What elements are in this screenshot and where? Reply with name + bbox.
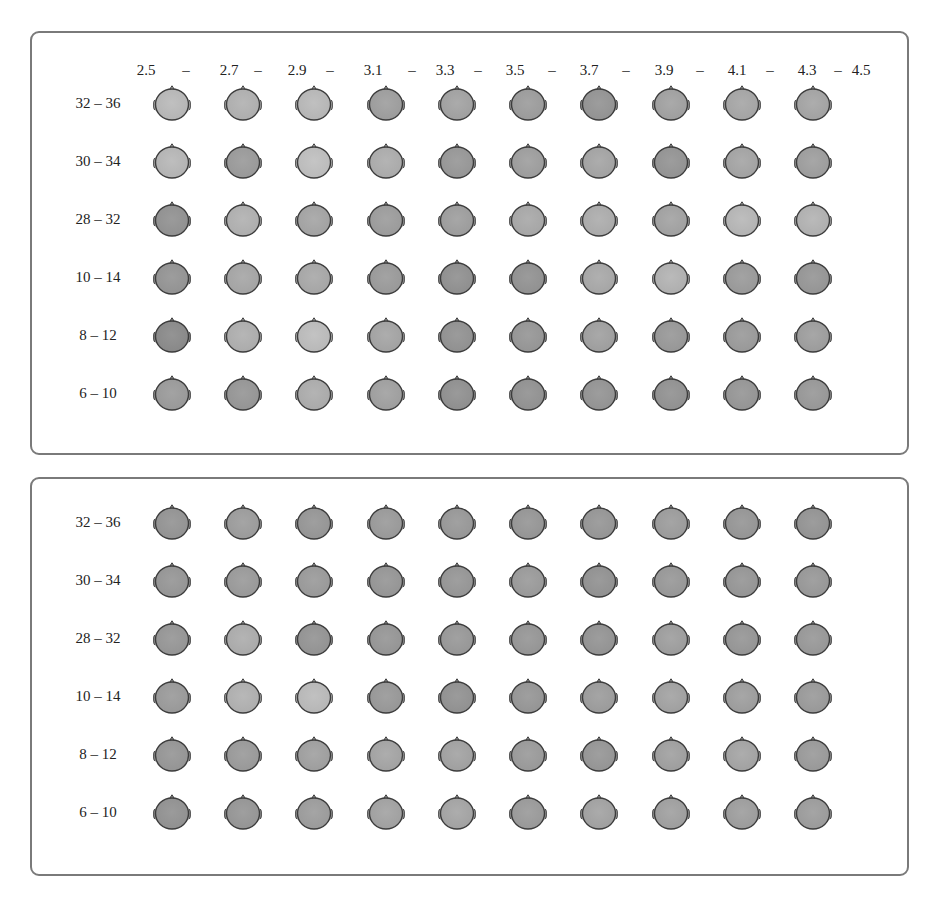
- frequency-separator: –: [326, 60, 334, 80]
- head-topomap-icon: [294, 678, 334, 714]
- head-topomap-icon: [579, 375, 619, 411]
- head-topomap-icon: [152, 201, 192, 237]
- frequency-tick-label: 4.3: [798, 60, 817, 80]
- head-topomap-icon: [722, 259, 762, 295]
- head-topomap-icon: [152, 375, 192, 411]
- head-topomap-icon: [294, 143, 334, 179]
- head-topomap-icon: [722, 678, 762, 714]
- head-topomap-icon: [651, 201, 691, 237]
- head-topomap-icon: [722, 201, 762, 237]
- head-topomap-icon: [223, 375, 263, 411]
- frequency-separator: –: [182, 60, 190, 80]
- head-topomap-icon: [366, 620, 406, 656]
- head-topomap-icon: [223, 620, 263, 656]
- head-topomap-icon: [366, 317, 406, 353]
- head-topomap-icon: [152, 143, 192, 179]
- head-topomap-icon: [508, 794, 548, 830]
- frequency-axis-header: 2.52.72.93.13.33.53.73.94.14.34.5–––––––…: [0, 60, 934, 80]
- head-topomap-icon: [508, 678, 548, 714]
- frequency-tick-label: 3.7: [580, 60, 599, 80]
- head-topomap-icon: [366, 143, 406, 179]
- head-topomap-icon: [437, 317, 477, 353]
- head-topomap-icon: [152, 85, 192, 121]
- head-topomap-icon: [366, 678, 406, 714]
- head-topomap-icon: [437, 259, 477, 295]
- head-topomap-icon: [294, 201, 334, 237]
- head-topomap-icon: [223, 201, 263, 237]
- head-topomap-icon: [152, 504, 192, 540]
- head-topomap-icon: [579, 201, 619, 237]
- head-topomap-icon: [508, 201, 548, 237]
- head-topomap-icon: [651, 620, 691, 656]
- head-topomap-icon: [437, 736, 477, 772]
- head-topomap-icon: [294, 259, 334, 295]
- row-label-age-range: 6 – 10: [58, 802, 138, 822]
- head-topomap-icon: [152, 562, 192, 598]
- head-topomap-icon: [579, 259, 619, 295]
- head-topomap-icon: [366, 736, 406, 772]
- head-topomap-icon: [579, 794, 619, 830]
- frequency-tick-label: 2.9: [288, 60, 307, 80]
- head-topomap-icon: [223, 259, 263, 295]
- frequency-separator: –: [766, 60, 774, 80]
- head-topomap-icon: [152, 678, 192, 714]
- head-topomap-icon: [294, 375, 334, 411]
- frequency-tick-label: 2.5: [137, 60, 156, 80]
- head-topomap-icon: [223, 85, 263, 121]
- head-topomap-icon: [437, 678, 477, 714]
- row-label-age-range: 32 – 36: [58, 512, 138, 532]
- head-topomap-icon: [508, 259, 548, 295]
- head-topomap-icon: [722, 736, 762, 772]
- head-topomap-icon: [152, 736, 192, 772]
- head-topomap-icon: [793, 504, 833, 540]
- head-topomap-icon: [223, 317, 263, 353]
- head-topomap-icon: [366, 201, 406, 237]
- head-topomap-icon: [152, 317, 192, 353]
- head-topomap-icon: [152, 259, 192, 295]
- head-topomap-icon: [437, 620, 477, 656]
- head-topomap-icon: [223, 504, 263, 540]
- frequency-tick-label: 3.5: [506, 60, 525, 80]
- row-label-age-range: 30 – 34: [58, 570, 138, 590]
- head-topomap-icon: [437, 201, 477, 237]
- frequency-separator: –: [408, 60, 416, 80]
- head-topomap-icon: [793, 678, 833, 714]
- head-topomap-icon: [223, 736, 263, 772]
- head-topomap-icon: [722, 620, 762, 656]
- frequency-separator: –: [834, 60, 842, 80]
- head-topomap-icon: [152, 620, 192, 656]
- head-topomap-icon: [294, 504, 334, 540]
- frequency-separator: –: [254, 60, 262, 80]
- frequency-tick-label: 3.9: [655, 60, 674, 80]
- frequency-tick-label: 2.7: [220, 60, 239, 80]
- head-topomap-icon: [508, 562, 548, 598]
- head-topomap-icon: [508, 85, 548, 121]
- head-topomap-icon: [437, 375, 477, 411]
- head-topomap-icon: [793, 620, 833, 656]
- frequency-separator: –: [622, 60, 630, 80]
- head-topomap-icon: [223, 794, 263, 830]
- head-topomap-icon: [651, 794, 691, 830]
- head-topomap-icon: [579, 678, 619, 714]
- head-topomap-icon: [722, 317, 762, 353]
- head-topomap-icon: [722, 794, 762, 830]
- head-topomap-icon: [366, 259, 406, 295]
- head-topomap-icon: [579, 562, 619, 598]
- head-topomap-icon: [579, 85, 619, 121]
- head-topomap-icon: [508, 736, 548, 772]
- head-topomap-icon: [508, 317, 548, 353]
- head-topomap-icon: [508, 143, 548, 179]
- frequency-separator: –: [696, 60, 704, 80]
- head-topomap-icon: [579, 736, 619, 772]
- head-topomap-icon: [294, 736, 334, 772]
- frequency-tick-label: 3.1: [364, 60, 383, 80]
- head-topomap-icon: [651, 143, 691, 179]
- head-topomap-icon: [579, 317, 619, 353]
- head-topomap-icon: [294, 562, 334, 598]
- head-topomap-icon: [651, 678, 691, 714]
- head-topomap-icon: [579, 504, 619, 540]
- head-topomap-icon: [437, 85, 477, 121]
- head-topomap-icon: [508, 504, 548, 540]
- head-topomap-icon: [722, 504, 762, 540]
- head-topomap-icon: [294, 794, 334, 830]
